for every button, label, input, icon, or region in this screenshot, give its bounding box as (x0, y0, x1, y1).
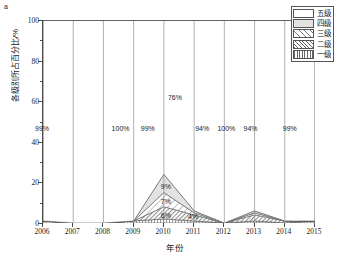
x-tick-label: 2010 (155, 227, 170, 236)
x-axis-title: 年份 (0, 241, 349, 253)
area-series-五级 (43, 20, 315, 223)
legend-swatch-icon (293, 19, 314, 28)
legend-swatch-icon (293, 29, 314, 38)
x-tick-mark (254, 223, 255, 227)
plot-area (42, 20, 314, 223)
data-label: 4% (188, 212, 198, 219)
data-label: 9% (161, 183, 171, 190)
data-label: 7% (161, 197, 171, 204)
x-tick-label: 2013 (246, 227, 261, 236)
x-tick-mark (102, 223, 103, 227)
legend-label: 一级 (317, 50, 331, 59)
x-tick-label: 2007 (65, 227, 80, 236)
data-label: 100% (217, 124, 235, 131)
legend-item-二级[interactable]: 二级 (293, 39, 331, 49)
x-tick-mark (223, 223, 224, 227)
y-tick-minor (40, 81, 43, 82)
legend-swatch-icon (293, 9, 314, 18)
y-tick-minor (40, 122, 43, 123)
y-tick-mark (38, 182, 42, 183)
legend-label: 三级 (317, 29, 331, 38)
x-tick-mark (193, 223, 194, 227)
x-tick-mark (284, 223, 285, 227)
legend-item-一级[interactable]: 一级 (293, 50, 331, 60)
y-axis-title: 各级别所占百分比/% (9, 6, 20, 126)
x-tick-label: 2006 (35, 227, 50, 236)
legend-item-五级[interactable]: 五级 (293, 8, 331, 18)
y-tick-minor (40, 203, 43, 204)
legend-swatch-icon (293, 40, 314, 49)
data-label: 99% (141, 124, 155, 131)
data-label: 94% (195, 124, 209, 131)
y-tick-mark (38, 101, 42, 102)
x-tick-mark (133, 223, 134, 227)
x-tick-label: 2014 (276, 227, 291, 236)
data-label: 6% (161, 211, 171, 218)
legend-label: 二级 (317, 40, 331, 49)
x-tick-label: 2008 (95, 227, 110, 236)
x-tick-label: 2015 (307, 227, 322, 236)
y-axis: 020406080100 (0, 20, 39, 223)
data-label: 99% (283, 124, 297, 131)
data-label: 100% (112, 124, 130, 131)
x-tick-mark (314, 223, 315, 227)
legend-label: 五级 (317, 9, 331, 18)
x-tick-label: 2011 (186, 227, 201, 236)
legend-item-四级[interactable]: 四级 (293, 18, 331, 28)
data-label: 99% (35, 124, 49, 131)
data-label: 94% (244, 124, 258, 131)
legend: 五级四级三级二级一级 (291, 6, 334, 62)
x-tick-mark (163, 223, 164, 227)
x-tick-mark (72, 223, 73, 227)
legend-swatch-icon (293, 50, 314, 59)
y-tick-mark (38, 61, 42, 62)
legend-item-三级[interactable]: 三级 (293, 29, 331, 39)
y-tick-minor (40, 40, 43, 41)
x-tick-label: 2009 (125, 227, 140, 236)
y-tick-minor (40, 162, 43, 163)
stacked-area-series (43, 20, 315, 223)
legend-label: 四级 (317, 19, 331, 28)
y-tick-mark (38, 20, 42, 21)
y-tick-mark (38, 142, 42, 143)
x-tick-mark (42, 223, 43, 227)
x-tick-label: 2012 (216, 227, 231, 236)
data-label: 76% (168, 94, 182, 101)
